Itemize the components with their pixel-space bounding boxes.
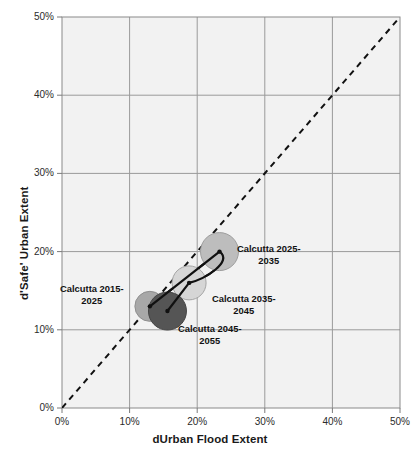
y-tick-label: 50% [20, 11, 54, 22]
x-tick-label: 0% [42, 416, 82, 427]
bubble-center-dot [148, 304, 152, 308]
chart-figure: dUrban Flood Extent d'Safe' Urban Extent… [0, 0, 420, 461]
bubble-label-line2: 2045 [212, 305, 276, 317]
bubble-label-line2: 2055 [178, 335, 242, 347]
x-tick-label: 20% [177, 416, 217, 427]
x-tick-label: 10% [110, 416, 150, 427]
bubble-center-dot [187, 281, 191, 285]
scatter-plot-canvas [0, 0, 420, 461]
x-tick-label: 40% [312, 416, 352, 427]
bubble-label-line1: Calcutta 2015- [60, 283, 124, 295]
bubble-label-line1: Calcutta 2025- [237, 243, 301, 255]
bubble-label: Calcutta 2045-2055 [178, 323, 242, 347]
bubble-label-line2: 2035 [237, 255, 301, 267]
y-tick-label: 30% [20, 167, 54, 178]
bubble-center-dot [217, 249, 221, 253]
y-tick-label: 40% [20, 89, 54, 100]
bubble-label-line1: Calcutta 2035- [212, 293, 276, 305]
y-tick-label: 10% [20, 324, 54, 335]
x-tick-label: 30% [245, 416, 285, 427]
bubble-label: Calcutta 2015-2025 [60, 283, 124, 307]
bubble-label-line2: 2025 [60, 295, 124, 307]
x-tick-label: 50% [380, 416, 420, 427]
bubble-label: Calcutta 2025-2035 [237, 243, 301, 267]
y-tick-label: 0% [20, 402, 54, 413]
y-tick-label: 20% [20, 246, 54, 257]
y-axis-title: d'Safe' Urban Extent [18, 186, 30, 300]
bubble-label: Calcutta 2035-2045 [212, 293, 276, 317]
x-axis-title: dUrban Flood Extent [0, 433, 420, 445]
bubble-center-dot [165, 309, 169, 313]
bubble-label-line1: Calcutta 2045- [178, 323, 242, 335]
